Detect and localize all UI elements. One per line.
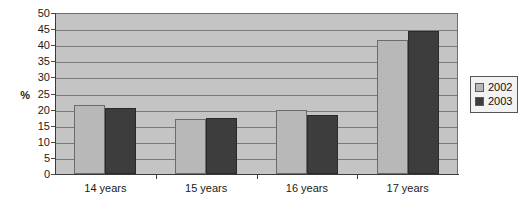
y-axis-ticks: 05101520253035404550 — [26, 0, 50, 208]
y-tick-label: 10 — [28, 136, 50, 147]
gridline — [55, 30, 457, 31]
plot-area — [55, 13, 458, 174]
y-tick-label: 20 — [28, 104, 50, 115]
bar — [206, 118, 237, 174]
y-tick-label: 15 — [28, 120, 50, 131]
legend-label: 2003 — [488, 96, 512, 107]
bar-chart: % 05101520253035404550 14 years15 years1… — [0, 0, 523, 208]
x-tick-label: 15 years — [185, 182, 227, 195]
legend-item: 2002 — [475, 81, 512, 94]
y-tick-label: 30 — [28, 72, 50, 83]
y-axis-line — [55, 13, 56, 175]
legend: 20022003 — [470, 76, 518, 113]
bar — [175, 119, 206, 174]
bar — [276, 110, 307, 174]
y-tick-label: 5 — [28, 152, 50, 163]
y-tick-label: 35 — [28, 56, 50, 67]
bar — [74, 105, 105, 174]
y-tick-label: 45 — [28, 24, 50, 35]
x-tick-mark — [156, 174, 157, 179]
y-tick-label: 50 — [28, 8, 50, 19]
bar — [377, 40, 408, 174]
y-tick-label: 40 — [28, 40, 50, 51]
legend-item: 2003 — [475, 95, 512, 108]
bar — [408, 31, 439, 174]
bar — [105, 108, 136, 174]
legend-label: 2002 — [488, 82, 512, 93]
bar — [307, 115, 338, 174]
x-tick-mark — [257, 174, 258, 179]
x-tick-label: 16 years — [286, 182, 328, 195]
y-tick-label: 25 — [28, 88, 50, 99]
x-tick-mark — [357, 174, 358, 179]
x-tick-label: 17 years — [387, 182, 429, 195]
legend-swatch-icon — [475, 83, 484, 92]
legend-swatch-icon — [475, 97, 484, 106]
x-tick-label: 14 years — [84, 182, 126, 195]
y-tick-label: 0 — [28, 169, 50, 180]
